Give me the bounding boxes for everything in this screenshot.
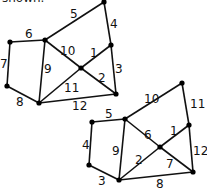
- edge-label: 2: [135, 153, 143, 167]
- edge-11: [182, 83, 189, 125]
- graph1-group: 546101392117812: [0, 0, 123, 113]
- edge-label: 9: [44, 62, 52, 76]
- edge-label: 1: [90, 46, 98, 60]
- vertex-H: [36, 100, 41, 105]
- edge-label: 8: [16, 95, 24, 109]
- vertex-D: [7, 39, 12, 44]
- vertex-R: [186, 122, 191, 127]
- vertex-F: [113, 91, 118, 96]
- edge-label: 1: [170, 124, 178, 138]
- edge-label: 6: [25, 27, 33, 41]
- graph-diagram: 546101392117812101156149271238: [0, 0, 207, 190]
- vertex-T: [86, 162, 91, 167]
- vertex-E: [78, 65, 83, 70]
- edge-6: [125, 119, 160, 147]
- vertex-Q: [122, 116, 127, 121]
- edge-7: [160, 147, 193, 172]
- edge-label: 12: [193, 144, 207, 158]
- vertex-B: [108, 42, 113, 47]
- edge-9: [119, 119, 125, 180]
- vertex-V: [190, 169, 195, 174]
- edge-label: 6: [144, 128, 152, 142]
- vertex-C: [42, 37, 47, 42]
- vertex-S: [157, 144, 162, 149]
- edge-label: 5: [105, 107, 113, 121]
- edge-label: 9: [112, 144, 120, 158]
- edge-label: 7: [166, 157, 174, 171]
- edge-label: 8: [156, 177, 164, 190]
- vertex-G: [4, 83, 9, 88]
- vertex-U: [116, 177, 121, 182]
- edge-label: 3: [115, 62, 123, 76]
- edge-label: 12: [72, 99, 87, 113]
- edge-label: 11: [64, 81, 79, 95]
- graph2-group: 101156149271238: [82, 80, 207, 190]
- edge-label: 3: [98, 174, 106, 188]
- vertex-P: [89, 119, 94, 124]
- edge-label: 7: [0, 57, 8, 71]
- edge-label: 2: [98, 71, 106, 85]
- edge-label: 10: [144, 92, 159, 106]
- edge-label: 11: [190, 97, 205, 111]
- vertex-W: [179, 80, 184, 85]
- edge-label: 5: [70, 7, 78, 21]
- edge-label: 10: [60, 44, 75, 58]
- edge-label: 4: [82, 138, 90, 152]
- edge-label: 4: [110, 17, 118, 31]
